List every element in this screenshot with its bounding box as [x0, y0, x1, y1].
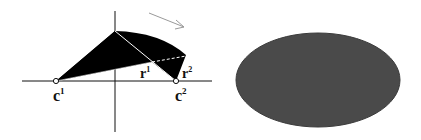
figure-canvas: c1 c2 r1 r2: [0, 0, 421, 140]
label-c2: c2: [175, 86, 187, 104]
center-point-c2: [173, 78, 178, 83]
label-c1: c1: [53, 86, 65, 104]
filled-ellipse: [236, 33, 400, 127]
left-panel: c1 c2 r1 r2: [22, 11, 212, 132]
label-r1: r1: [140, 65, 150, 81]
right-panel: [236, 33, 400, 127]
center-point-c1: [53, 78, 58, 83]
direction-arrow-icon: [149, 13, 184, 29]
label-r2: r2: [182, 65, 192, 81]
